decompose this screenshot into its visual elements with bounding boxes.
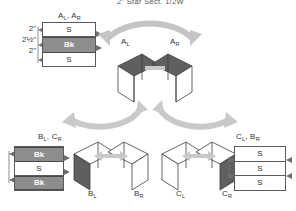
stack-b-row-0: Bk bbox=[15, 147, 63, 162]
stack-label-c: CL, BR bbox=[236, 133, 260, 141]
dimension-middle: 2½" bbox=[8, 35, 36, 45]
figure-label-c-left: CL bbox=[176, 190, 185, 198]
stack-a-row-0: S bbox=[43, 23, 95, 37]
stack-b: Bk S Bk bbox=[14, 146, 64, 191]
dimension-top: 2" bbox=[8, 24, 36, 34]
stack-a: S Bk S bbox=[42, 22, 96, 67]
stack-c-row-2: S bbox=[235, 176, 285, 190]
stack-label-a: AL, AR bbox=[58, 12, 81, 20]
figure-label-b-right: BR bbox=[134, 190, 144, 198]
stack-c-row-1: S bbox=[235, 162, 285, 176]
curved-double-arrow-icon-right bbox=[150, 98, 242, 134]
curved-double-arrow-icon-left bbox=[58, 98, 150, 134]
dimension-bracket-icon-c-right bbox=[284, 156, 294, 186]
dimension-bottom: 2" bbox=[8, 46, 36, 56]
stack-label-b: BL, CR bbox=[38, 133, 62, 141]
diagram-canvas: 2" Star Sect. 1/2W AL, AR 2" 2½" 2" S Bk… bbox=[0, 0, 296, 211]
stack-b-row-1: S bbox=[15, 162, 63, 176]
box-figure-b bbox=[68, 130, 154, 192]
diagram-title: 2" Star Sect. 1/2W bbox=[117, 0, 184, 6]
stack-b-row-2: Bk bbox=[15, 176, 63, 190]
stack-c: S S S bbox=[234, 146, 286, 191]
stack-a-row-2: S bbox=[43, 53, 95, 66]
figure-label-b-left: BL bbox=[88, 190, 97, 198]
figure-label-c-right: CR bbox=[222, 190, 232, 198]
stack-a-row-1: Bk bbox=[43, 37, 95, 53]
stack-c-row-0: S bbox=[235, 147, 285, 162]
box-figure-a bbox=[112, 44, 198, 106]
